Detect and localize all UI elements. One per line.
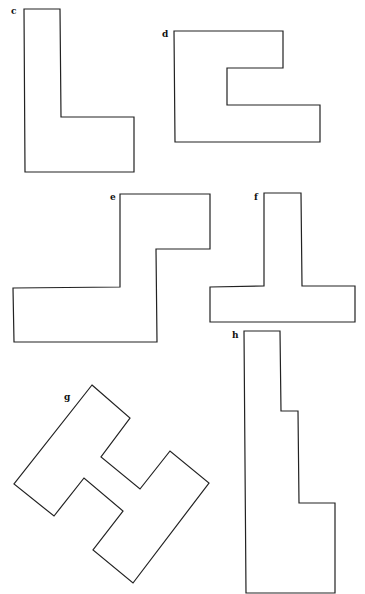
shape-h-outline (244, 331, 335, 593)
shape-c-label: c (11, 6, 17, 16)
shape-f-outline (210, 193, 355, 322)
polyomino-figure: c d e f g h (0, 0, 365, 594)
shape-c: c (11, 6, 134, 172)
shape-h-label: h (232, 330, 239, 340)
shape-g-label: g (64, 392, 71, 402)
shape-e-outline (13, 194, 210, 342)
shape-f: f (210, 192, 355, 322)
shape-e: e (13, 192, 210, 342)
shape-d-label: d (162, 29, 169, 39)
shape-d: d (162, 29, 320, 142)
shape-c-outline (24, 9, 134, 172)
shape-f-label: f (254, 192, 259, 202)
shape-e-label: e (110, 192, 116, 202)
shape-g: g (14, 385, 209, 583)
shape-h: h (232, 330, 335, 593)
shape-d-outline (174, 31, 320, 142)
shape-g-outline (14, 385, 209, 583)
